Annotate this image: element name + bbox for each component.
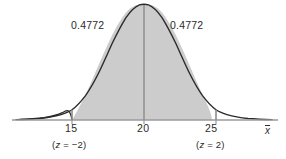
z-right-value: = 2) <box>204 139 224 150</box>
distribution-chart-svg <box>0 0 286 159</box>
x-tick-label-20: 20 <box>137 123 149 134</box>
x-tick-label-25: 25 <box>205 123 217 134</box>
x-bar-symbol: x <box>265 126 270 136</box>
x-tick-label-15: 15 <box>65 123 77 134</box>
z-score-label-left: (z = −2) <box>52 140 86 150</box>
area-label-right: 0.4772 <box>170 20 203 31</box>
z-left-value: = −2) <box>60 139 86 150</box>
normal-distribution-figure: 0.4772 0.4772 15 20 25 (z = −2) (z = 2) … <box>0 0 286 159</box>
z-score-label-right: (z = 2) <box>196 140 225 150</box>
x-bar-axis-label: x <box>265 126 270 136</box>
area-label-left: 0.4772 <box>71 20 104 31</box>
